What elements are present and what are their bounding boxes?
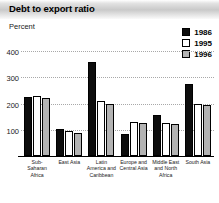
bar-group [182,46,214,156]
y-tick-label-300: 300 [6,74,19,83]
bar-1995 [65,131,73,156]
bar-1995 [162,123,170,156]
chart-x-axis-line [18,156,214,157]
bar-1996 [74,133,82,156]
bar-1995 [130,122,138,156]
bar-1986 [88,62,96,156]
bar-1996 [171,124,179,156]
category-label: East Asia [53,159,85,165]
category-label: Europe and Central Asia [117,159,149,172]
bar-1996 [203,105,211,156]
bar-1986 [121,134,129,156]
bar-group [53,46,85,156]
category-label: South Asia [182,159,214,165]
legend-swatch-icon-1986 [182,28,190,36]
y-tick-label-100: 100 [6,126,19,135]
bar-1986 [24,97,32,156]
page-title: Debt to export ratio [9,3,95,14]
bar-1996 [139,123,147,156]
bar-group [150,46,182,156]
bar-1986 [153,115,161,156]
y-tick-label-400: 400 [6,48,19,57]
y-tick-label-200: 200 [6,100,19,109]
chart-plot-area: 100200300400 [21,46,214,156]
bar-1995 [33,96,41,156]
legend-label-1986: 1986 [194,28,212,37]
category-label: Sub-Saharan Africa [21,159,53,178]
bar-group [117,46,149,156]
bar-1996 [106,104,114,156]
chart-bar-groups [21,46,214,156]
y-axis-unit-label: Percent [9,22,35,31]
chart-category-labels: Sub-Saharan AfricaEast AsiaLatin America… [21,159,214,178]
legend-item-1986: 1986 [182,27,212,37]
bar-1995 [194,104,202,156]
bar-group [21,46,53,156]
category-label: Latin America and Caribbean [85,159,117,178]
bar-1986 [56,129,64,157]
bar-1996 [42,98,50,156]
bar-group [85,46,117,156]
bar-1995 [97,101,105,156]
bar-1986 [185,84,193,156]
category-label: Middle East and North Africa [150,159,182,178]
